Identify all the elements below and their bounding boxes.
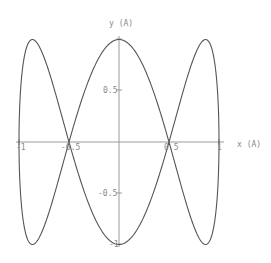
x-axis-title: x (A)	[237, 140, 261, 149]
y-tick-label: 0.5	[103, 86, 118, 95]
y-axis-title: y (A)	[109, 19, 133, 28]
x-tick-label: -0.5	[61, 143, 80, 152]
y-tick-label: -0.5	[98, 189, 117, 198]
x-tick-label: 1	[217, 143, 222, 152]
x-tick-label: -1	[16, 143, 26, 152]
x-tick-label: 0.5	[164, 143, 179, 152]
lissajous-chart: -1 -0.5 0.5 1 0.5 -0.5 -1 y (A) x (A)	[0, 0, 271, 263]
y-tick-label: -1	[109, 240, 119, 249]
